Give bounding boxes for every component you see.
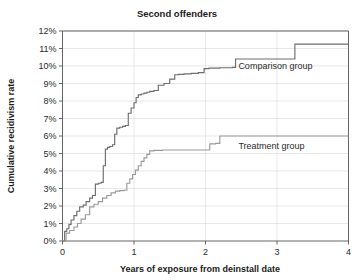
y-tick-label: 9% — [43, 79, 56, 89]
y-tick-label: 7% — [43, 114, 56, 124]
series-label-treatment-group: Treatment group — [238, 141, 304, 151]
chart-figure: 0%1%2%3%4%5%6%7%8%9%10%11%12% 01234 Comp… — [0, 0, 354, 280]
y-tick-label: 4% — [43, 166, 56, 176]
x-tick-label: 2 — [203, 247, 208, 257]
y-tick-label: 11% — [39, 44, 56, 54]
y-tick-label: 12% — [38, 26, 56, 36]
chart-title: Second offenders — [137, 8, 217, 19]
y-tick-label: 5% — [43, 149, 56, 159]
y-tick-label: 1% — [43, 219, 56, 229]
y-axis-label: Cumulative recidivism rate — [6, 79, 16, 194]
series-label-comparison-group: Comparison group — [238, 61, 312, 71]
x-tick-label: 4 — [346, 247, 351, 257]
y-tick-label: 3% — [43, 184, 56, 194]
y-tick-label: 2% — [43, 201, 56, 211]
y-tick-label: 10% — [38, 61, 56, 71]
chart-svg: 0%1%2%3%4%5%6%7%8%9%10%11%12% 01234 Comp… — [0, 0, 354, 280]
y-tick-label: 8% — [43, 96, 56, 106]
y-tick-label: 0% — [43, 236, 56, 246]
x-tick-label: 1 — [131, 247, 136, 257]
x-axis-label: Years of exposure from deinstall date — [120, 264, 280, 274]
y-tick-label: 6% — [43, 131, 56, 141]
x-tick-label: 3 — [274, 247, 279, 257]
x-tick-label: 0 — [60, 247, 65, 257]
